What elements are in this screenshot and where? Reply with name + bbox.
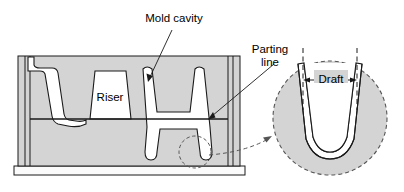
main-cross-section xyxy=(14,56,245,175)
detail-enlarged-view: Draft xyxy=(273,48,387,175)
casting-mold-diagram: Draft Mold cavity Riser Parting line xyxy=(0,0,404,192)
parting-line-label-2: line xyxy=(261,56,279,68)
mold-cavity-label: Mold cavity xyxy=(145,12,203,24)
figure-root: Draft Mold cavity Riser Parting line xyxy=(0,0,404,192)
riser-label: Riser xyxy=(97,91,124,103)
parting-line-label-1: Parting xyxy=(252,43,288,55)
draft-label: Draft xyxy=(319,73,345,85)
base-plate xyxy=(14,166,245,175)
